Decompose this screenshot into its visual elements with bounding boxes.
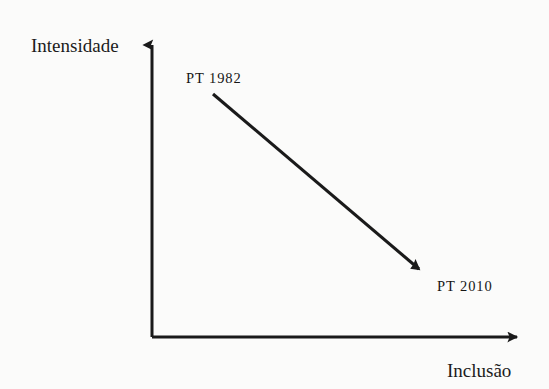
trend-arrow-line: [213, 94, 419, 269]
x-axis-label: Inclusão: [447, 361, 511, 380]
figure-canvas: Intensidade Inclusão PT 1982 PT 2010: [0, 0, 549, 389]
data-point-label-pt-2010: PT 2010: [437, 279, 493, 294]
data-point-label-pt-1982: PT 1982: [186, 71, 242, 86]
y-axis-label: Intensidade: [31, 36, 119, 55]
plot-drawing-layer: [0, 0, 549, 389]
